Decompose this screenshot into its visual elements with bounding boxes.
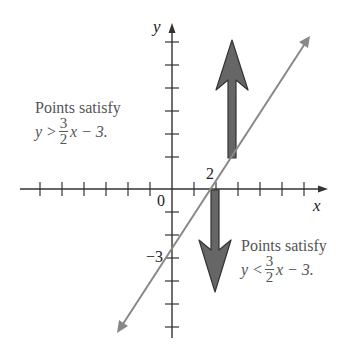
x-intercept-label: 2	[206, 166, 214, 182]
lower-region-inequality: y < 3 2 x − 3.	[241, 254, 314, 285]
inequality-rhs: x − 3.	[276, 261, 314, 279]
upper-region-caption: Points satisfy	[35, 100, 121, 116]
inequality-rhs: x − 3.	[70, 123, 108, 141]
upper-region-inequality: y > 3 2 x − 3.	[35, 116, 108, 147]
lower-region-arrow-icon	[199, 190, 231, 292]
y-intercept-label: −3	[146, 249, 163, 265]
y-axis	[165, 23, 179, 338]
coordinate-plane	[0, 0, 364, 357]
origin-label: 0	[157, 193, 165, 209]
inequality-lhs: y <	[241, 261, 263, 279]
numerator: 3	[266, 254, 274, 269]
denominator: 2	[266, 270, 274, 285]
denominator: 2	[60, 132, 68, 147]
x-axis	[20, 182, 328, 196]
y-axis-label: y	[153, 18, 161, 35]
lower-region-caption: Points satisfy	[241, 238, 327, 254]
fraction: 3 2	[59, 116, 68, 147]
fraction: 3 2	[265, 254, 274, 285]
inequality-lhs: y >	[35, 123, 57, 141]
x-axis-label: x	[313, 197, 321, 214]
numerator: 3	[60, 116, 68, 131]
